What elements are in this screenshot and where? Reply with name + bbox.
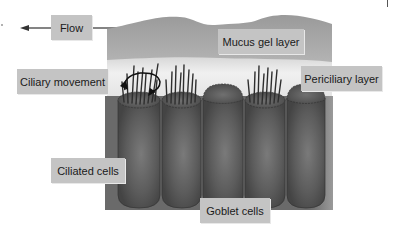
ciliated-cell [245, 92, 285, 208]
ciliated-cell [162, 92, 201, 208]
periciliary-layer-label: Periciliary layer [301, 66, 382, 91]
ciliated-cells-label: Ciliated cells [51, 158, 125, 183]
flow-label: Flow [51, 15, 92, 40]
goblet-cells-label: Goblet cells [200, 198, 270, 223]
ciliated-cell [118, 92, 160, 208]
mucus-gel-layer-label: Mucus gel layer [218, 29, 304, 54]
goblet-cell [287, 84, 325, 208]
goblet-cell [203, 84, 243, 208]
ciliary-movement-label: Ciliary movement [17, 69, 108, 94]
stray-dot [1, 24, 3, 26]
cell-layer [118, 84, 325, 208]
page-edge-mark [387, 0, 388, 7]
